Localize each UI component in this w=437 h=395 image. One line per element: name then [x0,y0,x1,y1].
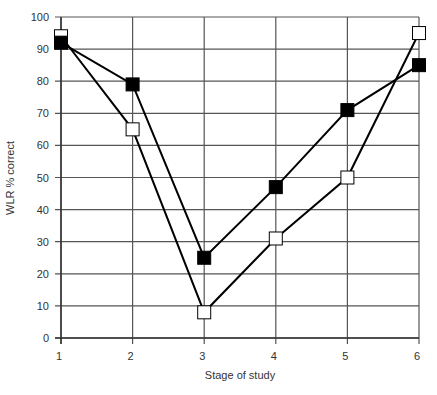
x-tick-label: 5 [342,350,348,362]
y-tick-label: 70 [37,107,49,119]
x-axis-label: Stage of study [205,369,276,381]
open-square-marker [413,27,426,40]
filled-square-marker [55,36,68,49]
x-tick-label: 1 [56,350,62,362]
y-tick-label: 40 [37,204,49,216]
y-tick-label: 100 [31,11,49,23]
open-square-marker [126,123,139,136]
y-tick-label: 80 [37,75,49,87]
y-tick-label: 90 [37,43,49,55]
y-tick-label: 50 [37,172,49,184]
open-square-marker [341,171,354,184]
x-tick-label: 2 [128,350,134,362]
x-tick-label: 4 [271,350,277,362]
y-tick-label: 30 [37,236,49,248]
open-square-marker [269,232,282,245]
x-tick-label: 3 [199,350,205,362]
x-tick-labels: 123456 [56,350,420,362]
filled-square-marker [341,104,354,117]
line-chart: 0102030405060708090100 123456 Stage of s… [0,0,437,395]
y-tick-label: 0 [43,332,49,344]
y-tick-label: 10 [37,300,49,312]
series-line [61,43,419,258]
y-axis-label: WLR % correct [4,141,16,215]
filled-square-marker [269,181,282,194]
data-series [55,27,426,319]
filled-square-marker [413,59,426,72]
filled-square-marker [126,78,139,91]
y-tick-labels: 0102030405060708090100 [31,11,49,344]
axes [55,17,419,344]
x-tick-label: 6 [414,350,420,362]
grid-lines [55,17,419,344]
y-tick-label: 60 [37,139,49,151]
y-tick-label: 20 [37,268,49,280]
filled-square-marker [198,251,211,264]
open-square-marker [198,306,211,319]
